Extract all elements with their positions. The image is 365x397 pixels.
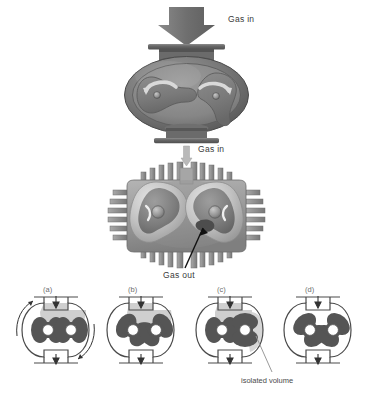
gas-in-label-middle: Gas in [198,144,224,154]
gas-in-arrow-top [158,7,215,46]
panel-c-label: (c) [217,285,226,294]
panel-a: (a) [17,285,95,364]
pump-diagram-figure: Gas in [0,0,365,397]
middle-assembly: Gas in [108,144,265,280]
gas-in-label-top: Gas in [228,14,254,24]
isolated-volume-label: isolated volume [241,376,293,385]
panel-c: (c) [196,285,293,385]
panel-b: (b) [107,285,177,364]
gas-out-label: Gas out [163,270,195,280]
panel-b-label: (b) [128,285,138,294]
panel-d-label: (d) [305,285,315,294]
panel-a-label: (a) [43,285,53,294]
sequence-panels: (a) [17,285,354,385]
isolated-volume-leader [256,336,272,372]
top-assembly: Gas in [125,7,255,143]
panel-d: (d) [284,285,354,364]
